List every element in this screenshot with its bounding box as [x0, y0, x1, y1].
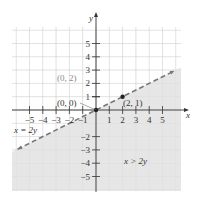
x-tick-label: 3 — [134, 115, 139, 125]
x-tick-label: −4 — [38, 115, 48, 125]
label-line-equation: x = 2y — [13, 125, 37, 135]
y-tick-label: 1 — [86, 92, 91, 102]
x-tick-label: −1 — [78, 115, 88, 125]
y-tick-label: −2 — [80, 132, 90, 142]
y-tick-label: 5 — [86, 39, 91, 49]
x-tick-label: −2 — [65, 115, 75, 125]
x-tick-label: −5 — [25, 115, 35, 125]
x-tick-label: 5 — [160, 115, 165, 125]
x-tick-label: 1 — [107, 115, 112, 125]
label-point-0-0: (0, 0) — [57, 98, 77, 108]
y-tick-label: −4 — [80, 158, 90, 168]
y-tick-label: 3 — [86, 65, 91, 75]
x-tick-label: 4 — [147, 115, 152, 125]
label-point-0-2: (0, 2) — [57, 73, 77, 83]
y-tick-label: 4 — [86, 52, 91, 62]
x-axis-label: x — [185, 110, 190, 120]
label-region-inequality: x > 2y — [123, 156, 147, 166]
y-tick-label: 2 — [86, 78, 91, 88]
label-point-2-1: (2, 1) — [123, 98, 143, 108]
y-axis-label: y — [88, 13, 93, 23]
y-tick-label: −3 — [80, 145, 90, 155]
shaded-region — [12, 68, 181, 192]
x-tick-label: −3 — [51, 115, 61, 125]
x-tick-label: 2 — [120, 115, 125, 125]
y-tick-label: −5 — [80, 172, 90, 182]
graph: −5−4−3−2−11234554321−2−3−4−5 y x (0, 2) … — [0, 0, 201, 200]
